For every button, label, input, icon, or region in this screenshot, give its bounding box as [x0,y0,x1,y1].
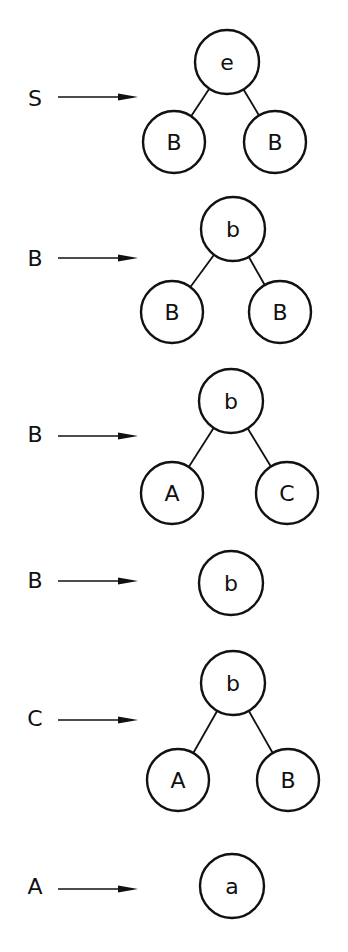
tree-child-label: B [280,768,295,793]
rule-lhs-label: A [27,874,42,899]
production-rule: CbAB [27,651,319,811]
rule-lhs-label: B [27,246,42,271]
tree-grammar-diagram: SeBBBbBBBbACBbCbABAa [0,0,348,952]
production-rule: Bb [27,551,263,615]
tree-root-label: b [224,389,238,414]
tree-edge [248,256,264,285]
production-rule: BbAC [27,369,318,524]
tree-root-label: b [226,217,240,242]
tree-root-label: e [220,50,234,75]
arrow-head-icon [118,255,138,262]
tree-edge [193,710,217,753]
tree-child-label: B [164,300,179,325]
tree-child-label: C [279,481,294,506]
tree-root-label: a [225,874,238,899]
rule-lhs-label: C [27,706,42,731]
rule-lhs-label: B [27,422,42,447]
production-rule: BbBB [27,197,311,343]
arrow-head-icon [118,717,138,724]
tree-child-label: B [166,130,181,155]
tree-child-label: B [267,130,282,155]
tree-edge [247,427,271,466]
tree-root-label: b [224,571,238,596]
tree-root-label: b [226,671,240,696]
tree-child-label: A [164,481,179,506]
arrow-head-icon [118,886,138,893]
tree-edge [189,427,215,467]
rule-lhs-label: B [27,568,42,593]
tree-edge [190,254,214,287]
tree-child-label: A [170,768,185,793]
tree-child-label: B [272,300,287,325]
arrow-head-icon [118,578,138,585]
tree-edge [248,710,272,753]
arrow-head-icon [118,94,138,101]
arrow-head-icon [118,433,138,440]
tree-edge [191,88,210,116]
production-rule: SeBB [28,30,306,173]
rule-lhs-label: S [28,86,42,111]
production-rule: Aa [27,854,264,918]
tree-edge [243,89,259,116]
